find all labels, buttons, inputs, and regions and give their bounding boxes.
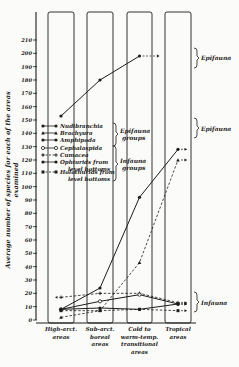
arrowhead <box>185 159 188 162</box>
y-tick-label: 170 <box>21 90 32 96</box>
legend-marker <box>41 138 44 141</box>
legend-label: Holothurids from <box>59 169 115 176</box>
x-category-label: Tropical <box>165 326 191 333</box>
y-tick-label: 180 <box>21 77 32 83</box>
legend-label: Brachyura <box>59 130 93 137</box>
data-point <box>98 78 101 81</box>
legend-label: Cumacea <box>60 152 89 158</box>
data-point <box>138 261 142 264</box>
y-tick-label: 100 <box>21 184 32 190</box>
label-epifauna-mid: Epifauna <box>200 125 231 133</box>
legend-marker <box>54 146 57 149</box>
legend-marker <box>41 124 44 127</box>
y-tick-label: 30 <box>25 277 33 283</box>
arrowhead <box>185 309 188 312</box>
arrowhead <box>157 55 160 58</box>
label-infauna-groups: groups <box>122 164 146 172</box>
data-point <box>98 292 102 296</box>
data-point <box>176 158 180 161</box>
data-point <box>99 309 102 312</box>
legend-label: Ophiurids from <box>60 159 108 166</box>
y-tick-label: 0 <box>28 317 32 323</box>
area-column-3 <box>165 12 191 323</box>
label-epifauna-top: Epifauna <box>200 54 231 62</box>
y-tick-label: 50 <box>25 250 33 256</box>
legend-label: Amphipoda <box>59 137 96 144</box>
legend-marker <box>55 171 58 174</box>
data-point <box>59 114 62 117</box>
legend-label: level bottoms <box>68 176 111 182</box>
y-tick-label: 40 <box>25 264 33 270</box>
data-point <box>177 309 180 312</box>
y-tick-label: 150 <box>21 117 32 123</box>
legend-marker <box>41 160 44 163</box>
legend-marker <box>54 124 57 127</box>
arrowhead <box>185 148 188 151</box>
legend-marker <box>54 153 58 157</box>
brace <box>194 48 199 68</box>
legend-marker <box>41 146 44 149</box>
x-category-label: boreal <box>90 334 110 340</box>
series-line <box>61 304 178 309</box>
data-point <box>60 309 63 312</box>
data-point <box>138 308 141 311</box>
data-point <box>176 302 179 305</box>
y-tick-label: 120 <box>21 157 32 163</box>
legend-marker <box>41 153 45 157</box>
brace <box>194 292 199 312</box>
y-tick-label: 130 <box>21 144 32 150</box>
series-line <box>61 309 178 310</box>
x-category-label: transitional <box>121 341 158 347</box>
x-category-label: Sub-arct. <box>86 326 115 332</box>
legend-label: Nudibranchia <box>59 123 103 129</box>
x-category-label: areas <box>131 349 149 355</box>
legend-marker <box>54 160 57 163</box>
y-tick-label: 140 <box>21 130 32 136</box>
y-tick-label: 70 <box>25 224 33 230</box>
y-tick-label: 160 <box>21 104 32 110</box>
data-point <box>98 286 101 289</box>
data-point <box>138 54 141 57</box>
data-point <box>98 306 101 309</box>
x-category-label: areas <box>53 334 71 340</box>
legend-label: Cephalaspida <box>60 145 102 152</box>
legend-marker <box>42 171 45 174</box>
data-point <box>138 196 141 199</box>
y-tick-label: 110 <box>21 170 32 176</box>
data-point <box>138 293 141 296</box>
data-point <box>176 148 179 151</box>
x-category-label: warm-temp. <box>121 334 159 341</box>
label-infauna: Infauna <box>200 299 227 307</box>
brace <box>194 118 199 138</box>
y-tick-label: 200 <box>20 50 32 56</box>
y-tick-label: 90 <box>25 197 33 203</box>
series-line <box>61 56 140 116</box>
x-category-label: areas <box>92 341 110 347</box>
x-category-label: High-arct. <box>44 326 77 333</box>
y-tick-label: 210 <box>20 37 32 43</box>
legend-brace-epifauna <box>113 123 118 146</box>
arrowhead <box>55 296 58 299</box>
line-chart: 0102030405060708090100110120130140150160… <box>0 0 239 367</box>
data-point <box>98 300 101 303</box>
y-tick-label: 10 <box>25 304 33 310</box>
y-tick-label: 60 <box>25 237 33 243</box>
y-tick-label: 80 <box>25 210 33 216</box>
series-line <box>61 160 178 317</box>
data-point <box>59 296 63 300</box>
legend-brace-infauna <box>113 146 118 181</box>
series-line <box>61 295 178 310</box>
x-category-label: Cold to <box>128 326 151 332</box>
legend-marker <box>54 138 57 141</box>
y-tick-label: 190 <box>21 64 32 70</box>
label-epifauna-groups: groups <box>122 134 146 142</box>
x-category-label: areas <box>170 334 188 340</box>
y-tick-label: 20 <box>24 290 33 296</box>
